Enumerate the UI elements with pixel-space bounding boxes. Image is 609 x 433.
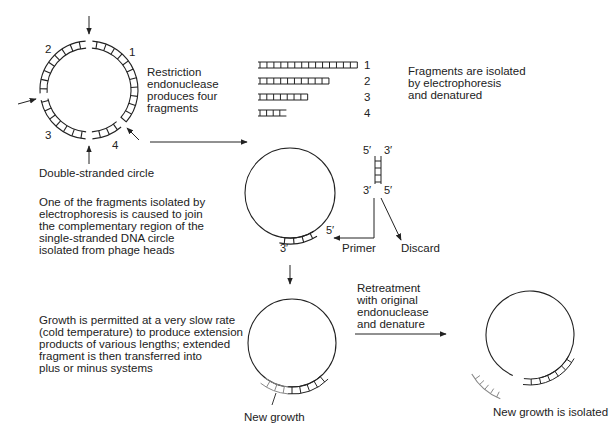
fragment-label-2: 2 bbox=[364, 74, 370, 88]
circle-label-4: 4 bbox=[112, 138, 118, 152]
fragment-label-4: 4 bbox=[364, 106, 370, 120]
primer-label: Primer bbox=[342, 241, 376, 255]
fragment-ladders bbox=[258, 62, 357, 116]
new-growth-isolated-label: New growth is isolated bbox=[493, 405, 608, 419]
circle-with-isolated-growth bbox=[472, 291, 574, 399]
discard-label: Discard bbox=[401, 241, 440, 255]
primer-5-end: 5′ bbox=[326, 224, 334, 236]
double-stranded-circle bbox=[40, 41, 138, 139]
restriction-step-text: Restriction endonuclease produces four f… bbox=[147, 66, 219, 114]
electrophoresis-step-text: Fragments are isolated by electrophoresi… bbox=[408, 65, 526, 101]
strand-end-top-right: 3′ bbox=[384, 144, 392, 156]
growth-step-text: Growth is permitted at a very slow rate … bbox=[39, 314, 243, 374]
circle-with-new-growth bbox=[248, 299, 336, 405]
strand-end-bottom-left: 3′ bbox=[363, 184, 371, 196]
join-step-text: One of the fragments isolated by electro… bbox=[39, 196, 205, 256]
double-stranded-label: Double-stranded circle bbox=[39, 166, 154, 180]
denatured-fragment bbox=[334, 156, 401, 240]
new-growth-label: New growth bbox=[244, 410, 305, 424]
circle-label-3: 3 bbox=[45, 128, 51, 142]
strand-end-bottom-right: 5′ bbox=[384, 184, 392, 196]
primer-3-end: 3′ bbox=[280, 242, 288, 254]
fragment-label-1: 1 bbox=[364, 58, 370, 72]
retreatment-step-text: Retreatment with original endonuclease a… bbox=[357, 282, 429, 330]
single-stranded-circle-with-primer bbox=[245, 148, 335, 244]
strand-end-top-left: 5′ bbox=[363, 144, 371, 156]
cut-site-arrows bbox=[18, 16, 139, 164]
circle-label-1: 1 bbox=[129, 45, 135, 59]
fragment-label-3: 3 bbox=[364, 90, 370, 104]
circle-label-2: 2 bbox=[45, 42, 51, 56]
